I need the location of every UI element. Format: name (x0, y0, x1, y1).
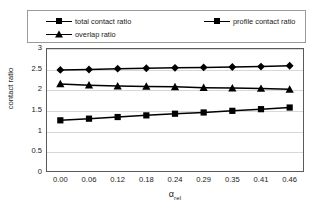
square-marker-icon (287, 104, 293, 110)
y-axis-tick-label: 3 (2, 44, 42, 52)
legend-item-total-contact-ratio: total contact ratio (46, 15, 131, 27)
y-axis-tick-label: 0.5 (2, 147, 42, 155)
y-axis-label: contact ratio (6, 53, 15, 125)
legend-label-total-contact-ratio: total contact ratio (75, 17, 131, 26)
diamond-marker-icon (114, 65, 122, 73)
diamond-marker-icon (200, 64, 208, 72)
series-layer (46, 48, 304, 172)
diamond-marker-icon (142, 64, 150, 72)
square-marker-icon (172, 111, 178, 117)
contact-ratio-chart: total contact ratio profile contact rati… (0, 0, 316, 213)
diamond-marker-icon (228, 63, 236, 71)
square-marker-icon (229, 108, 235, 114)
legend-label-overlap-ratio: overlap ratio (75, 30, 116, 39)
diamond-marker-icon (257, 63, 265, 71)
x-axis-label: αrel (46, 189, 304, 201)
x-axis-label-subscript: rel (174, 195, 181, 201)
square-marker-icon (86, 116, 92, 122)
y-axis-tick-label: 0 (2, 168, 42, 176)
legend-label-profile-contact-ratio: profile contact ratio (233, 17, 295, 26)
legend-item-profile-contact-ratio: profile contact ratio (204, 15, 295, 27)
diamond-marker-icon (85, 66, 93, 74)
x-axis-tick-label: 0.46 (273, 175, 307, 184)
square-marker-icon (57, 117, 63, 123)
x-axis-ticks: 0.000.060.120.180.240.290.350.410.46 (46, 175, 304, 187)
diamond-marker-icon (171, 64, 179, 72)
square-marker-icon (115, 114, 121, 120)
square-marker-icon (143, 112, 149, 118)
legend-item-overlap-ratio: overlap ratio (46, 28, 116, 40)
square-marker-icon (204, 16, 230, 27)
plot-area-wrapper (46, 48, 304, 172)
y-axis-tick-label: 1 (2, 127, 42, 135)
square-marker-icon (258, 106, 264, 112)
diamond-marker-icon (56, 66, 64, 74)
series-overlap-ratio (56, 80, 294, 93)
square-marker-icon (201, 109, 207, 115)
series-profile-contact-ratio (57, 104, 293, 123)
series-total-contact-ratio (56, 62, 293, 74)
chart-legend: total contact ratio profile contact rati… (27, 10, 306, 43)
triangle-marker-icon (46, 29, 72, 40)
diamond-marker-icon (46, 16, 72, 27)
diamond-marker-icon (286, 62, 294, 70)
